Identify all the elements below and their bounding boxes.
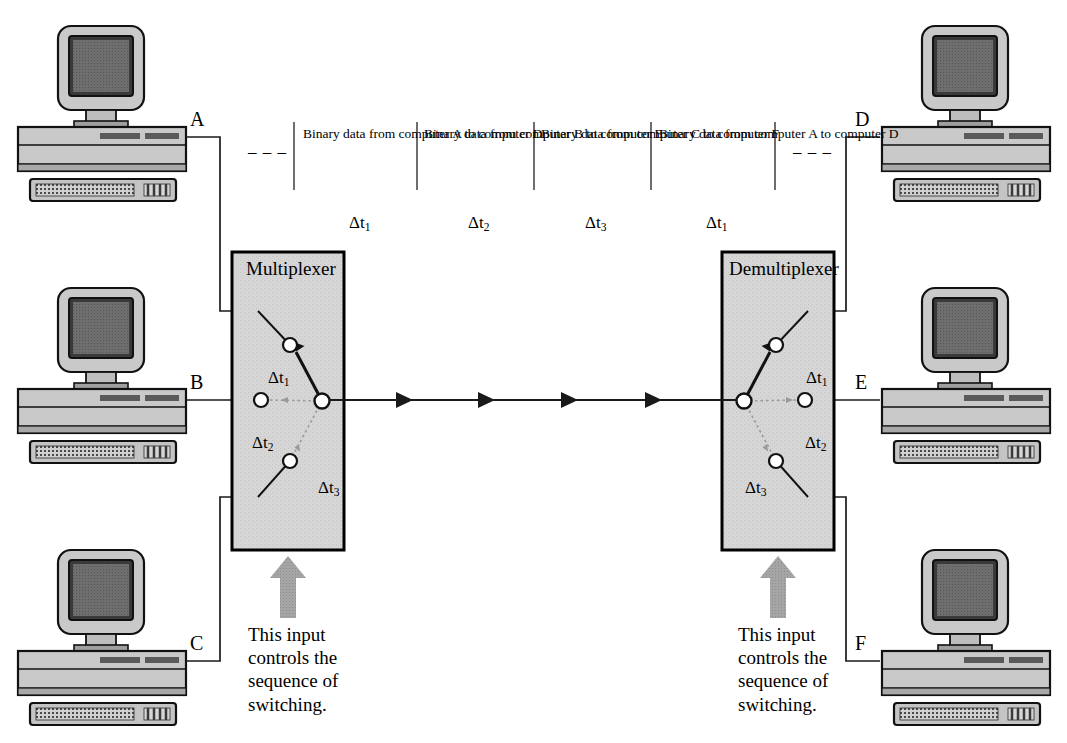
demux-contact-dt1 (769, 338, 783, 352)
label-computer-a: A (190, 108, 204, 132)
mux-label-dt1-sub: 1 (284, 376, 290, 389)
timeline-slot-tick-1: Δt1 (333, 193, 371, 255)
mux-control-arrow-icon (270, 556, 306, 618)
computer-c-icon (18, 550, 186, 725)
timeline-slot-tick-3-sub: 3 (601, 221, 607, 234)
mux-label-dt1-symbol: Δt (268, 368, 284, 387)
demux-label-dt1-sub: 1 (822, 376, 828, 389)
mux-label-dt2-sub: 2 (268, 441, 274, 454)
mux-label-dt1: Δt1 (252, 348, 290, 410)
timeline-slot-tick-2-symbol: Δt (468, 213, 484, 232)
label-computer-c: C (190, 632, 203, 656)
multiplexer-control-note: This input controls the sequence of swit… (248, 623, 338, 716)
demux-contact-dt3 (769, 454, 783, 468)
tdm-diagram: A B C D E F – – – – – – Binary data from… (0, 0, 1067, 743)
diagram-vector-layer (0, 0, 1067, 743)
timeline-leading-ellipsis: – – – (248, 142, 287, 162)
mux-label-dt2: Δt2 (236, 413, 274, 475)
timeline-slot-tick-2: Δt2 (452, 193, 490, 255)
demux-label-dt2-symbol: Δt (805, 433, 821, 452)
timeline-slot-tick-4-symbol: Δt (706, 213, 722, 232)
timeline-slot-tick-4: Δt1 (690, 193, 728, 255)
timeline-slot-text-4: Binary data from computer A to computer … (659, 126, 771, 143)
mux-label-dt3: Δt3 (302, 458, 340, 520)
demux-label-dt3-symbol: Δt (745, 478, 761, 497)
demultiplexer-control-note: This input controls the sequence of swit… (738, 623, 828, 716)
demux-label-dt2: Δt2 (789, 413, 827, 475)
demux-label-dt1-symbol: Δt (806, 368, 822, 387)
timeline-slot-text-2: Binary data from computer B to computer … (424, 126, 536, 143)
demultiplexer-title: Demultiplexer (729, 258, 839, 280)
timeline-slot-tick-1-sub: 1 (365, 221, 371, 234)
demux-label-dt3-sub: 3 (761, 486, 767, 499)
timeline-trailing-ellipsis: – – – (793, 142, 832, 162)
timeline-slot-tick-3: Δt3 (569, 193, 607, 255)
mux-label-dt3-sub: 3 (334, 486, 340, 499)
timeline-slot-tick-3-symbol: Δt (585, 213, 601, 232)
computer-d-icon (882, 26, 1050, 201)
mux-label-dt3-symbol: Δt (318, 478, 334, 497)
label-computer-b: B (190, 371, 203, 395)
mux-pivot (315, 394, 330, 409)
demux-label-dt1: Δt1 (790, 348, 828, 410)
computer-b-icon (18, 288, 186, 463)
demux-pivot (737, 394, 752, 409)
timeline-slot-tick-4-sub: 1 (722, 221, 728, 234)
mux-label-dt2-symbol: Δt (252, 433, 268, 452)
demux-control-arrow-icon (760, 556, 796, 618)
computer-f-icon (882, 550, 1050, 725)
timeline-slot-tick-1-symbol: Δt (349, 213, 365, 232)
timeline-slot-tick-2-sub: 2 (484, 221, 490, 234)
label-computer-f: F (855, 632, 866, 656)
label-computer-e: E (855, 371, 867, 395)
demux-label-dt2-sub: 2 (821, 441, 827, 454)
mux-contact-dt3 (283, 454, 297, 468)
computer-a-icon (18, 26, 186, 201)
computer-e-icon (882, 288, 1050, 463)
multiplexer-title: Multiplexer (246, 258, 336, 280)
demux-label-dt3: Δt3 (729, 458, 767, 520)
timeline-slot-text-1: Binary data from computer A to computer … (303, 126, 415, 143)
timeline-slot-text-3: Binary data from computer C to computer … (541, 126, 653, 143)
